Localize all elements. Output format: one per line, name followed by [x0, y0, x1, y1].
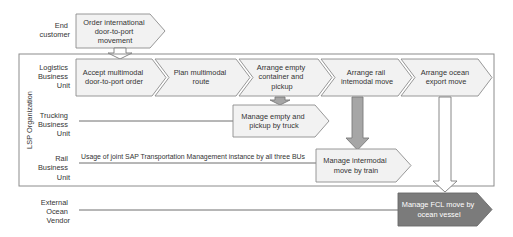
- rail-note: Usage of joint SAP Transportation Manage…: [81, 153, 305, 161]
- trucking-step: Manage empty and pickup by truck: [233, 105, 329, 137]
- lsp-process-diagram: End customer Order international door-to…: [0, 0, 513, 237]
- trucking-step-label: Manage empty and pickup by truck: [241, 112, 306, 131]
- lane-label-end-customer: End customer: [40, 21, 71, 39]
- logistics-step: Arrange rail intemodal move: [321, 59, 412, 96]
- logistics-step: Arrange ocean export move: [401, 59, 492, 96]
- rail-step: Manage intermodal move by train: [316, 149, 411, 182]
- logistics-step: Plan multimodal route: [155, 59, 250, 96]
- lane-label-rail: Rail Business Unit: [38, 154, 70, 182]
- logistics-step-label: Accept multimodal door-to-port order: [83, 68, 145, 86]
- logistics-step: Accept multimodal door-to-port order: [76, 59, 166, 96]
- lane-label-external: External Ocean Vendor: [41, 198, 71, 225]
- ocean-vessel-step: Manage FCL move by ocean vessel: [398, 193, 492, 226]
- logistics-step-label: Arrange ocean export move: [421, 68, 472, 86]
- lane-label-trucking: Trucking Business Unit: [38, 111, 70, 138]
- down-arrow-icon: [346, 97, 369, 150]
- order-box: Order international door-to-port movemen…: [76, 14, 165, 48]
- lane-label-logistics: Logistics Business Unit: [38, 63, 70, 90]
- lsp-organization-label: LSP Organization: [25, 91, 34, 149]
- logistics-step: Arrange empty container and pickup: [239, 59, 332, 96]
- down-arrow-icon: [270, 97, 290, 105]
- logistics-step-label: Arrange rail intemodal move: [341, 68, 393, 86]
- down-arrow-icon: [433, 97, 457, 192]
